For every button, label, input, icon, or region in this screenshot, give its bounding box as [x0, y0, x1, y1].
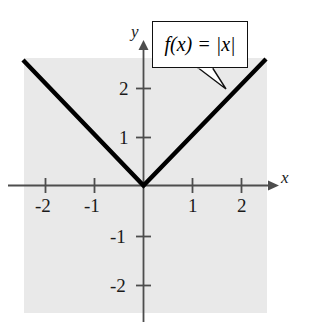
x-tick-label--1: -1: [84, 196, 100, 215]
y-tick-label--2: -2: [110, 276, 126, 295]
y-tick-label--1: -1: [110, 227, 126, 246]
callout-formula-label: f(x) = |x|: [164, 33, 235, 56]
y-axis-arrowhead: [139, 40, 149, 50]
x-tick-label-2: 2: [237, 196, 247, 215]
y-axis-label: y: [131, 23, 139, 40]
x-axis-arrowhead: [268, 181, 279, 191]
y-tick-label-2: 2: [119, 79, 129, 98]
x-tick-label--2: -2: [35, 196, 51, 215]
x-axis-label: x: [281, 169, 289, 186]
figure-absolute-value-graph: f(x) = |x| x y -2 -1 1 2 2 1 -1 -2: [0, 0, 311, 329]
callout-box: f(x) = |x|: [152, 21, 248, 68]
y-tick-label-1: 1: [119, 128, 129, 147]
x-tick-label-1: 1: [188, 196, 198, 215]
